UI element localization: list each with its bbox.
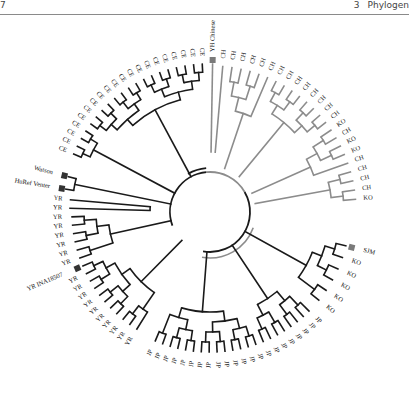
branch: [258, 305, 263, 316]
branch: [280, 305, 287, 315]
branch: [326, 138, 336, 144]
branch: [279, 86, 284, 95]
branch: [162, 89, 165, 96]
branch: [151, 85, 154, 92]
branch: [272, 324, 278, 335]
marked-label-yh-chinese: YH Chinese: [208, 20, 216, 52]
leaf-label-ko: KO: [333, 292, 345, 303]
leaf-label-ch-ko: CH: [229, 50, 237, 60]
branch: [341, 181, 353, 184]
branch: [186, 320, 188, 330]
leaf-label-ce: CE: [161, 53, 170, 63]
huref-marker-icon: [58, 185, 65, 192]
branch: [178, 92, 180, 100]
leaf-label-ch-ko: CH: [219, 49, 227, 59]
branch: [342, 190, 354, 192]
branch: [237, 319, 239, 329]
leaf-label-ko: KO: [346, 269, 358, 279]
leaf-label-jp: JP: [265, 349, 274, 358]
branch: [194, 65, 195, 73]
branch: [137, 312, 148, 329]
branch: [339, 172, 351, 175]
branch: [246, 337, 249, 347]
leaf-label-ch-ko: KO: [345, 134, 357, 145]
leaf-label-ch-ko: CH: [354, 153, 365, 163]
branch: [192, 81, 193, 89]
branch: [307, 154, 318, 160]
branch: [270, 93, 275, 102]
branch: [122, 93, 127, 99]
branch: [300, 102, 307, 110]
branch: [191, 331, 192, 341]
branch: [255, 190, 330, 204]
leaf-label-yr: YR: [53, 213, 63, 220]
branch: [68, 177, 76, 179]
marked-label-watson: Watson: [33, 164, 54, 176]
branch: [217, 342, 218, 352]
branch: [90, 276, 99, 281]
branch: [259, 330, 264, 341]
branch: [321, 155, 332, 160]
branch: [136, 84, 140, 91]
branch: [329, 265, 338, 269]
branch: [170, 337, 173, 347]
branch: [290, 296, 298, 305]
leaf-label-yr: YR: [123, 335, 134, 347]
branch: [306, 109, 313, 116]
branch: [272, 105, 277, 113]
branch: [163, 334, 166, 343]
branch: [251, 78, 268, 117]
leaf-label-jp: JP: [153, 351, 162, 360]
branch: [233, 330, 235, 340]
marked-label-ina18507: YR INA18507: [26, 270, 65, 292]
branch: [70, 208, 150, 210]
leaf-label-yr: YR: [53, 194, 63, 202]
branch: [235, 98, 238, 112]
branch: [224, 341, 225, 351]
leaf-label-ko: KO: [340, 281, 352, 292]
branch: [77, 146, 84, 150]
leaf-label-jp: JP: [161, 354, 170, 362]
leaf-label-ce: CE: [152, 56, 161, 66]
leaf-label-ch-ko: CH: [360, 173, 371, 182]
leaf-label-ch-ko: CH: [257, 57, 267, 68]
leaf-label-jp: JP: [170, 357, 178, 365]
branch: [182, 75, 184, 83]
leaf-label-ch-ko: CH: [357, 163, 368, 172]
leaf-label-jp: JP: [196, 361, 203, 368]
branch: [284, 316, 291, 326]
watson-marker-icon: [61, 172, 68, 179]
branch: [313, 140, 323, 146]
leaf-label-yr: YR: [56, 239, 67, 248]
leaf-label-yr: YR: [60, 257, 71, 267]
branch: [105, 295, 113, 301]
leaf-label-jp: JP: [249, 355, 258, 363]
branch: [177, 328, 180, 338]
branch: [295, 126, 302, 133]
branch-arc: [207, 172, 245, 192]
branch: [83, 262, 92, 266]
branch: [111, 113, 117, 119]
branch: [296, 113, 303, 120]
branch: [73, 224, 85, 225]
branch: [311, 294, 319, 300]
branch: [254, 74, 259, 87]
branch: [307, 125, 315, 131]
branch: [86, 269, 95, 273]
branch: [123, 311, 129, 319]
branch: [314, 163, 348, 175]
branch: [185, 66, 186, 74]
branch: [238, 339, 240, 349]
branch: [122, 269, 130, 275]
phylogenetic-tree: CECECECECECECECECECECECECECECECECECECECE…: [0, 0, 409, 407]
branch: [318, 285, 326, 291]
branch: [178, 339, 180, 349]
branch: [94, 261, 103, 265]
branch: [199, 72, 200, 80]
branch: [168, 70, 170, 78]
leaf-label-jp: JP: [205, 362, 212, 369]
leaf-label-yr: YR: [54, 231, 65, 239]
branch: [77, 247, 89, 250]
leaf-label-ch-ko: KO: [350, 143, 362, 153]
leaf-label-jp: JP: [215, 362, 222, 369]
